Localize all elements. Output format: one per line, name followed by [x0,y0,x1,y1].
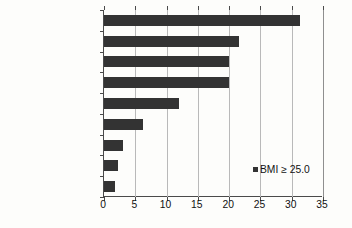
y-axis-tick [100,31,104,32]
bar [104,77,229,88]
y-axis-tick [100,114,104,115]
y-axis-tick [100,52,104,53]
x-axis-tick-top [260,6,261,10]
y-axis-tick [100,93,104,94]
x-axis-tick-label: 25 [254,199,265,210]
bar [104,36,239,47]
x-axis-tick-top [292,6,293,10]
x-axis-tick-top [135,6,136,10]
x-axis-tick-top [167,6,168,10]
legend-swatch-icon [253,167,258,172]
legend: BMI ≥ 25.0 [253,164,310,175]
x-axis-tick-top [104,6,105,10]
y-axis-tick [100,10,104,11]
bar [104,160,118,171]
gridline [323,10,324,197]
bar [104,140,123,151]
bar [104,98,179,109]
x-axis-tick-label: 20 [222,199,233,210]
y-axis-tick [100,155,104,156]
x-axis-tick-label: 30 [285,199,296,210]
bar [104,181,115,192]
y-axis-tick [100,197,104,198]
y-axis-tick [100,135,104,136]
x-axis-tick-label: 0 [100,199,106,210]
bar [104,56,229,67]
x-axis-tick-label: 5 [131,199,137,210]
x-axis-tick-label: 10 [160,199,171,210]
x-axis-tick-top [323,6,324,10]
legend-label: BMI ≥ 25.0 [260,164,310,175]
x-axis-tick-label: 35 [316,199,327,210]
x-axis-tick-top [229,6,230,10]
y-axis-tick [100,176,104,177]
bar [104,15,300,26]
y-axis-tick [100,72,104,73]
x-axis-tick-top [198,6,199,10]
bar-chart-figure: United StatesaBrazilColombiaArgentinaFra… [0,0,352,228]
x-axis-tick-label: 15 [191,199,202,210]
bar [104,119,143,130]
